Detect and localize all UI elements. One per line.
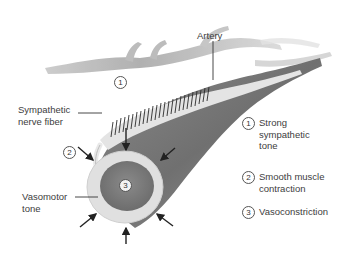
legend-2-line1: Smooth muscle: [259, 171, 324, 183]
vasomotor-tone-label-line1: Vasomotor: [22, 191, 67, 203]
legend-number-1: 1: [242, 117, 255, 130]
artery-label: Artery: [197, 30, 222, 42]
legend-item-3: 3 Vasoconstriction: [242, 206, 328, 219]
legend-3-line1: Vasoconstriction: [259, 206, 328, 218]
legend-item-1: 1 Strong sympathetic tone: [242, 117, 310, 152]
legend-number-3: 3: [242, 206, 255, 219]
vasomotor-tone-diagram: Artery Sympathetic nerve fiber Vasomotor…: [0, 0, 353, 255]
legend-text-2: Smooth muscle contraction: [259, 171, 324, 194]
legend-2-line2: contraction: [259, 183, 324, 195]
vasomotor-tone-label-line2: tone: [22, 203, 41, 215]
legend-1-line1: Strong: [259, 117, 310, 129]
legend-1-line2: sympathetic: [259, 129, 310, 141]
marker-3: 3: [119, 179, 132, 192]
sympathetic-nerve-fiber-label-line2: nerve fiber: [18, 116, 63, 128]
legend-item-2: 2 Smooth muscle contraction: [242, 171, 324, 194]
legend-text-3: Vasoconstriction: [259, 206, 328, 218]
legend-text-1: Strong sympathetic tone: [259, 117, 310, 152]
legend-number-2: 2: [242, 171, 255, 184]
legend-1-line3: tone: [259, 140, 310, 152]
marker-2: 2: [63, 146, 76, 159]
sympathetic-nerve-fiber-label-line1: Sympathetic: [18, 104, 70, 116]
marker-1: 1: [114, 76, 127, 89]
